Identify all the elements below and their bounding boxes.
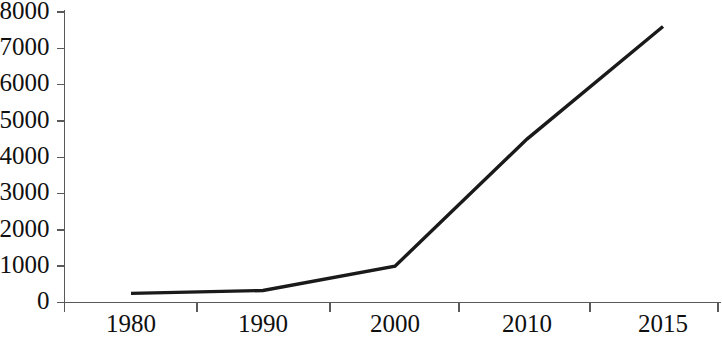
x-axis-tick-label: 2000 [370,310,420,337]
x-axis-tick-label: 1980 [106,310,156,337]
data-series-line [131,27,663,294]
y-axis-tick-marks [57,12,65,303]
y-axis-tick-label: 6000 [0,69,50,96]
y-axis-tick-label: 7000 [0,33,50,60]
chart-canvas: 010002000300040005000600070008000 198019… [0,0,722,337]
x-axis-tick-labels: 19801990200020102015 [106,310,688,337]
x-axis-tick-label: 2010 [502,310,552,337]
y-axis-tick-label: 5000 [0,106,50,133]
y-axis-tick-labels: 010002000300040005000600070008000 [0,0,50,314]
y-axis-tick-label: 1000 [0,251,50,278]
y-axis-tick-label: 2000 [0,215,50,242]
line-chart: 010002000300040005000600070008000 198019… [0,0,722,337]
x-axis-tick-label: 2015 [638,310,688,337]
y-axis-tick-label: 4000 [0,142,50,169]
x-axis-tick-label: 1990 [238,310,288,337]
y-axis-tick-label: 8000 [0,0,50,24]
y-axis-tick-label: 0 [37,287,50,314]
y-axis-tick-label: 3000 [0,178,50,205]
